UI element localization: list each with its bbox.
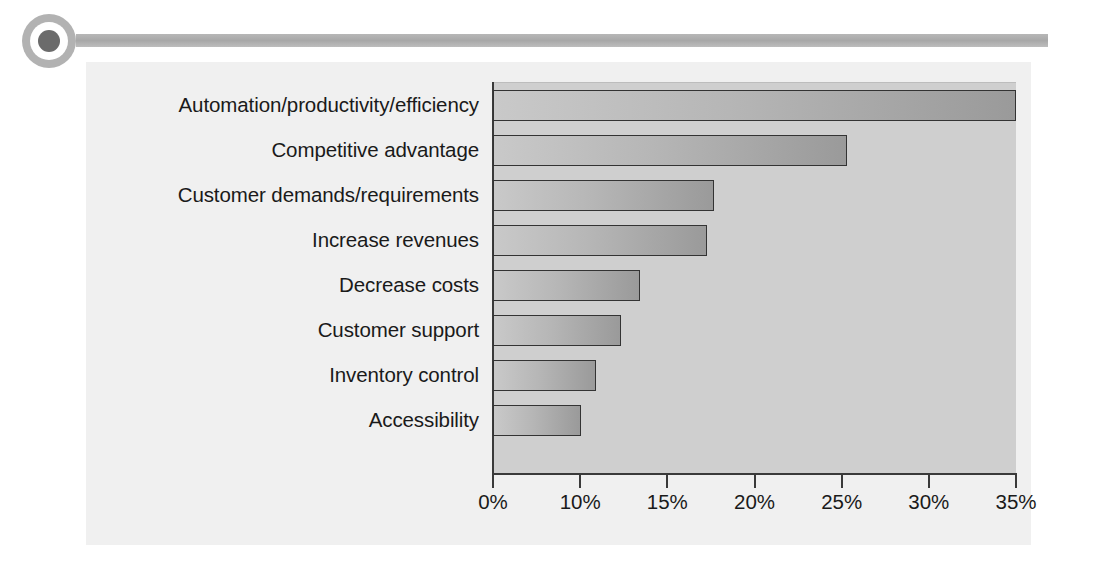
bar-row: Accessibility	[86, 398, 1031, 443]
bar	[493, 405, 581, 436]
chart-panel: Automation/productivity/efficiencyCompet…	[86, 62, 1031, 545]
x-axis-tick-label: 0%	[448, 492, 538, 513]
x-axis-tick-label: 15%	[622, 492, 712, 513]
bar-wrapper	[493, 225, 707, 256]
x-axis-tick	[841, 475, 843, 488]
bar-category-label: Accessibility	[59, 410, 479, 431]
bar-category-label: Customer support	[59, 320, 479, 341]
bar-row: Decrease costs	[86, 263, 1031, 308]
bar	[493, 360, 596, 391]
x-axis-tick	[928, 475, 930, 488]
x-axis-tick-label: 30%	[884, 492, 974, 513]
bar-row: Customer support	[86, 308, 1031, 353]
horizontal-rule-decoration	[76, 34, 1048, 47]
bar-wrapper	[493, 180, 714, 211]
bar-row: Automation/productivity/efficiency	[86, 83, 1031, 128]
circle-bullet-dot	[38, 30, 60, 52]
bar	[493, 315, 621, 346]
bar	[493, 270, 640, 301]
bar-category-label: Automation/productivity/efficiency	[59, 95, 479, 116]
bar-wrapper	[493, 405, 581, 436]
bar-category-label: Decrease costs	[59, 275, 479, 296]
bar	[493, 135, 847, 166]
x-axis-tick-label: 35%	[971, 492, 1061, 513]
bar-wrapper	[493, 135, 847, 166]
x-axis-tick	[754, 475, 756, 488]
bar-wrapper	[493, 315, 621, 346]
x-axis-tick-label: 25%	[797, 492, 887, 513]
x-axis-tick	[579, 475, 581, 488]
bar	[493, 90, 1016, 121]
x-axis-tick	[492, 475, 494, 488]
bar-category-label: Inventory control	[59, 365, 479, 386]
x-axis-tick	[1015, 475, 1017, 488]
x-axis-tick-label: 20%	[710, 492, 800, 513]
bar	[493, 225, 707, 256]
bar-row: Competitive advantage	[86, 128, 1031, 173]
bar-rows: Automation/productivity/efficiencyCompet…	[86, 62, 1031, 545]
bar-row: Inventory control	[86, 353, 1031, 398]
x-axis-tick-label: 10%	[535, 492, 625, 513]
circle-bullet-icon	[22, 14, 76, 68]
bar-category-label: Increase revenues	[59, 230, 479, 251]
bar-wrapper	[493, 90, 1016, 121]
x-axis-tick	[666, 475, 668, 488]
bar-category-label: Customer demands/requirements	[59, 185, 479, 206]
bar-row: Customer demands/requirements	[86, 173, 1031, 218]
bar-wrapper	[493, 270, 640, 301]
bar	[493, 180, 714, 211]
bar-category-label: Competitive advantage	[59, 140, 479, 161]
bar-wrapper	[493, 360, 596, 391]
figure-root: Automation/productivity/efficiencyCompet…	[0, 0, 1106, 579]
bar-row: Increase revenues	[86, 218, 1031, 263]
